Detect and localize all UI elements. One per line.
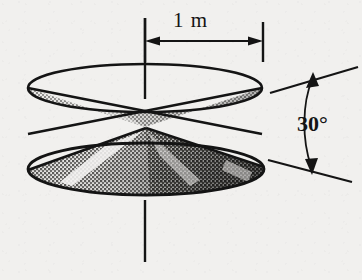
lower-cone xyxy=(20,120,280,210)
diagram-canvas xyxy=(0,0,362,280)
dimension-label-1m: 1 m xyxy=(173,10,208,31)
cone-diagram-figure: 1 m 30° xyxy=(0,0,362,280)
dimension-arrowhead-left xyxy=(145,37,160,46)
angle-label-30deg: 30° xyxy=(297,113,328,135)
dimension-arrowhead-right xyxy=(248,37,263,46)
